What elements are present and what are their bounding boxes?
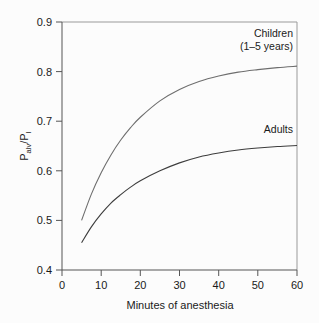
- series-line-adults: [82, 146, 297, 243]
- x-axis-title: Minutes of anesthesia: [126, 299, 234, 311]
- x-tick-label-50: 50: [252, 279, 264, 291]
- children-annotation-line2: (1–5 years): [240, 40, 293, 52]
- x-axis-ticks: [62, 270, 297, 276]
- children-annotation-line1: Children: [254, 27, 293, 39]
- y-axis-title-slash: /P: [18, 133, 30, 143]
- adults-annotation: Adults: [264, 123, 293, 135]
- chart-figure: 0.9 0.8 0.7 0.6 0.5 0.4 0 10 20 30 40 50…: [0, 0, 319, 323]
- y-tick-label-0.9: 0.9: [37, 16, 52, 28]
- x-tick-label-30: 30: [173, 279, 185, 291]
- x-tick-label-20: 20: [134, 279, 146, 291]
- x-tick-label-0: 0: [59, 279, 65, 291]
- y-tick-label-0.7: 0.7: [37, 115, 52, 127]
- y-axis-ticks: [56, 22, 62, 270]
- svg-text:Palv/PI: Palv/PI: [18, 131, 33, 160]
- line-chart: 0.9 0.8 0.7 0.6 0.5 0.4 0 10 20 30 40 50…: [0, 0, 319, 323]
- y-axis-title: Palv/PI: [18, 131, 33, 160]
- y-tick-label-0.6: 0.6: [37, 165, 52, 177]
- x-tick-label-40: 40: [213, 279, 225, 291]
- y-tick-label-0.8: 0.8: [37, 66, 52, 78]
- y-tick-label-0.4: 0.4: [37, 264, 52, 276]
- y-axis-title-base: P: [18, 153, 30, 160]
- y-axis-title-sub-alv: alv: [24, 144, 33, 154]
- y-tick-label-0.5: 0.5: [37, 214, 52, 226]
- x-tick-label-60: 60: [291, 279, 303, 291]
- series-line-children: [82, 66, 297, 220]
- y-axis-title-sub-i: I: [24, 131, 33, 133]
- x-tick-label-10: 10: [95, 279, 107, 291]
